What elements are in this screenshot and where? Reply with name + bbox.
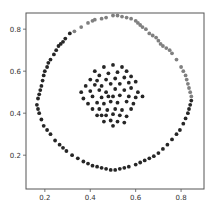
data-point xyxy=(113,77,117,81)
data-point xyxy=(179,65,183,69)
data-point xyxy=(120,108,124,112)
data-point xyxy=(38,88,42,92)
data-point xyxy=(116,70,120,74)
scatter-chart: 0.20.40.60.8 0.20.40.60.8 xyxy=(0,0,219,210)
data-point xyxy=(125,69,129,73)
data-point xyxy=(188,103,192,107)
data-point xyxy=(49,58,53,62)
data-point xyxy=(42,124,46,128)
data-point xyxy=(166,143,170,147)
data-point xyxy=(113,168,117,172)
data-point xyxy=(45,128,49,132)
data-point xyxy=(157,39,161,43)
data-point xyxy=(170,138,174,142)
data-point xyxy=(113,87,117,91)
data-point xyxy=(161,147,165,151)
data-point xyxy=(36,97,40,101)
data-point xyxy=(147,156,151,160)
y-tick-label: 0.4 xyxy=(10,110,22,118)
data-point xyxy=(100,17,104,21)
data-point xyxy=(175,132,179,136)
data-point xyxy=(105,108,109,112)
y-axis-ticks: 0.20.40.60.8 xyxy=(10,26,26,160)
data-point xyxy=(118,93,122,97)
data-point xyxy=(184,117,188,121)
data-point xyxy=(127,95,131,99)
data-point xyxy=(116,101,120,105)
data-point xyxy=(129,86,133,90)
x-tick-label: 0.2 xyxy=(39,194,50,202)
data-point xyxy=(170,51,174,55)
data-point xyxy=(54,48,58,52)
data-point xyxy=(113,107,117,111)
data-point xyxy=(107,95,111,99)
data-point xyxy=(100,166,104,170)
data-point xyxy=(168,48,172,52)
data-point xyxy=(189,99,193,103)
data-point xyxy=(111,95,115,99)
data-point xyxy=(104,78,108,82)
data-point xyxy=(53,139,57,143)
data-point xyxy=(82,97,86,101)
data-point xyxy=(116,14,120,18)
data-point xyxy=(185,78,189,82)
data-point xyxy=(118,82,122,86)
data-point xyxy=(68,32,72,36)
data-point xyxy=(109,119,113,123)
data-point xyxy=(52,53,56,57)
data-point xyxy=(88,78,92,82)
data-point xyxy=(102,120,106,124)
data-point xyxy=(129,107,133,111)
data-point xyxy=(109,82,113,86)
data-point xyxy=(45,65,49,69)
data-point xyxy=(100,96,104,100)
data-point xyxy=(95,113,99,117)
data-point xyxy=(41,79,45,83)
data-point xyxy=(86,102,90,106)
data-point xyxy=(91,107,95,111)
data-point xyxy=(120,65,124,69)
data-point xyxy=(184,74,188,78)
data-point xyxy=(100,84,104,88)
data-point xyxy=(138,161,142,165)
data-point xyxy=(147,32,151,36)
data-point xyxy=(125,114,129,118)
data-point xyxy=(154,36,158,40)
data-point xyxy=(97,107,101,111)
data-point xyxy=(93,18,97,22)
data-point xyxy=(111,124,115,128)
data-point xyxy=(186,82,190,86)
data-point xyxy=(186,111,190,115)
data-point xyxy=(134,163,138,167)
data-point xyxy=(161,44,165,48)
data-point xyxy=(109,168,113,172)
data-point xyxy=(136,90,140,94)
data-point xyxy=(134,80,138,84)
data-point xyxy=(175,58,179,62)
data-point xyxy=(102,65,106,69)
data-point xyxy=(152,154,156,158)
data-point xyxy=(109,100,113,104)
data-point xyxy=(111,63,115,67)
data-point xyxy=(141,95,145,99)
data-point xyxy=(97,74,101,78)
data-point xyxy=(187,86,191,90)
data-point xyxy=(120,15,124,19)
data-point xyxy=(79,90,83,94)
data-point xyxy=(181,69,185,73)
data-point xyxy=(104,113,108,117)
data-point xyxy=(181,122,185,126)
data-point xyxy=(93,69,97,73)
data-point xyxy=(91,164,95,168)
data-point xyxy=(111,112,115,116)
data-point xyxy=(144,27,148,31)
data-point xyxy=(40,84,44,88)
data-point xyxy=(104,90,108,94)
data-point xyxy=(63,37,67,41)
data-point xyxy=(65,149,69,153)
data-point xyxy=(107,71,111,75)
data-point xyxy=(104,167,108,171)
data-point xyxy=(37,111,41,115)
data-point xyxy=(93,83,97,87)
data-point xyxy=(129,17,133,21)
